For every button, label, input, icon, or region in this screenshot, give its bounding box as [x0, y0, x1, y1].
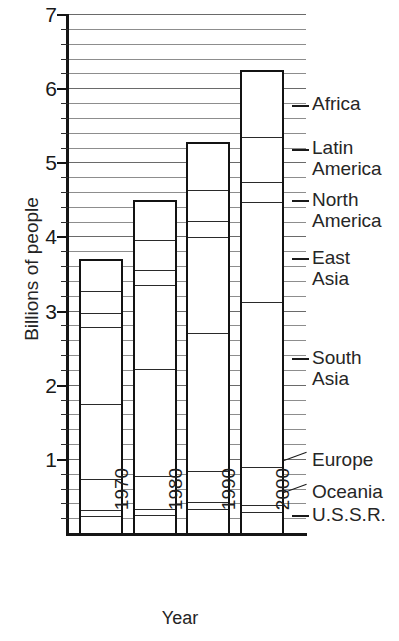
y-tick-minor — [61, 503, 68, 504]
y-tick-minor — [61, 281, 68, 282]
y-tick-major — [57, 88, 68, 90]
y-tick-minor — [61, 177, 68, 178]
bar-segment — [81, 313, 121, 326]
legend-item-oceania[interactable]: Oceania — [312, 481, 383, 502]
bar-segment — [81, 291, 121, 313]
legend-label: Latin — [312, 137, 382, 158]
legend-label: America — [312, 210, 382, 231]
bar-segment — [135, 270, 175, 286]
y-tick-minor — [61, 340, 68, 341]
legend-item-latin[interactable]: LatinAmerica — [312, 137, 382, 179]
chart-figure: Billions of people 1234567 1970198019902… — [0, 0, 399, 641]
x-axis-title: Year — [55, 608, 305, 629]
bar-segment — [242, 137, 282, 182]
y-tick-major — [57, 162, 68, 164]
y-tick-minor — [61, 251, 68, 252]
y-tick-label: 5 — [45, 152, 57, 173]
y-tick-minor — [61, 414, 68, 415]
y-tick-label: 2 — [45, 374, 57, 395]
bar-segment — [135, 285, 175, 369]
y-tick-minor — [61, 73, 68, 74]
y-tick-label: 4 — [45, 226, 57, 247]
y-tick-major — [57, 236, 68, 238]
y-tick-major — [57, 311, 68, 313]
bar-segment — [188, 190, 228, 221]
gridline-minor — [69, 44, 306, 45]
y-tick-minor — [61, 44, 68, 45]
y-tick-minor — [61, 370, 68, 371]
legend-leader-tick-east — [292, 258, 309, 260]
y-tick-minor — [61, 148, 68, 149]
y-tick-minor — [61, 400, 68, 401]
gridline-minor — [69, 59, 306, 60]
y-tick-minor — [61, 474, 68, 475]
y-tick-minor — [61, 489, 68, 490]
y-tick-minor — [61, 192, 68, 193]
legend-leader-tick-south — [292, 358, 309, 360]
legend-item-africa[interactable]: Africa — [312, 93, 361, 114]
y-tick-major — [57, 385, 68, 387]
y-tick-major — [57, 14, 68, 16]
y-tick-label: 6 — [45, 78, 57, 99]
bar-segment — [242, 202, 282, 302]
y-tick-minor — [61, 266, 68, 267]
y-tick-label: 7 — [45, 4, 57, 25]
legend-label: America — [312, 158, 382, 179]
y-tick-minor — [61, 133, 68, 134]
y-tick-minor — [61, 518, 68, 519]
bar-segment — [135, 240, 175, 270]
gridline-minor — [69, 29, 306, 30]
y-tick-major — [57, 459, 68, 461]
y-axis-title: Billions of people — [21, 169, 43, 369]
y-tick-minor — [61, 296, 68, 297]
y-tick-minor — [61, 118, 68, 119]
x-tick-label-1970: 1970 — [111, 444, 133, 534]
bar-segment — [188, 221, 228, 237]
y-tick-minor — [61, 355, 68, 356]
legend-label: U.S.S.R. — [312, 504, 386, 525]
legend-label: East — [312, 247, 350, 268]
bar-segment — [242, 182, 282, 202]
x-tick-label-1980: 1980 — [165, 444, 187, 534]
y-tick-minor — [61, 444, 68, 445]
legend-item-north[interactable]: NorthAmerica — [312, 189, 382, 231]
legend-label: Asia — [312, 268, 350, 289]
gridline-major — [69, 14, 306, 15]
y-tick-minor — [61, 429, 68, 430]
y-tick-minor — [61, 325, 68, 326]
legend-item-east[interactable]: EastAsia — [312, 247, 350, 289]
y-tick-label: 3 — [45, 300, 57, 321]
legend-item-south[interactable]: SouthAsia — [312, 347, 362, 389]
legend-label: Oceania — [312, 481, 383, 502]
x-tick-label-1990: 1990 — [218, 444, 240, 534]
legend-label: North — [312, 189, 382, 210]
y-tick-minor — [61, 29, 68, 30]
y-tick-minor — [61, 222, 68, 223]
legend-item-ussr[interactable]: U.S.S.R. — [312, 504, 386, 525]
y-tick-minor — [61, 59, 68, 60]
y-tick-minor — [61, 207, 68, 208]
bar-segment — [81, 327, 121, 405]
legend-label: Africa — [312, 93, 361, 114]
y-tick-label: 1 — [45, 448, 57, 469]
y-tick-minor — [61, 103, 68, 104]
legend-leader-tick-africa — [292, 105, 309, 107]
y-axis-line — [66, 14, 69, 535]
legend-label: South — [312, 347, 362, 368]
bar-segment — [242, 302, 282, 467]
legend-leader-tick-latin — [292, 149, 309, 151]
legend-leader-tick-north — [292, 200, 309, 202]
legend-item-europe[interactable]: Europe — [312, 449, 373, 470]
bar-segment — [188, 237, 228, 333]
legend-label: Europe — [312, 449, 373, 470]
legend-leader-tick-ussr — [292, 515, 309, 517]
legend-label: Asia — [312, 368, 362, 389]
